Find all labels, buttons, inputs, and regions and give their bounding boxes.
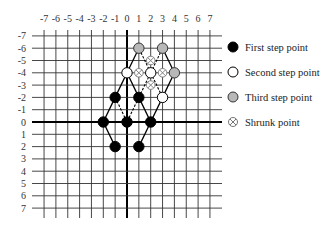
x-tick-label: 4 bbox=[172, 13, 177, 24]
x-tick-label: 6 bbox=[196, 13, 201, 24]
circled-x-icon bbox=[227, 116, 239, 128]
first-step-point bbox=[98, 117, 108, 127]
legend-label: First step point bbox=[245, 42, 308, 53]
y-tick-label: 3 bbox=[21, 153, 26, 164]
shrunk-point bbox=[146, 56, 155, 65]
legend-item-second-step: Second step point bbox=[226, 63, 320, 81]
x-tick-label: -5 bbox=[64, 13, 72, 24]
y-tick-label: -5 bbox=[18, 55, 26, 66]
y-tick-label: 1 bbox=[21, 129, 26, 140]
first-step-point bbox=[134, 92, 144, 102]
first-step-point bbox=[110, 141, 120, 151]
y-tick-label: 0 bbox=[21, 117, 26, 128]
legend-label: Third step point bbox=[245, 92, 312, 103]
legend-item-shrunk: Shrunk point bbox=[226, 113, 300, 131]
x-tick-label: 1 bbox=[136, 13, 141, 24]
legend-label: Shrunk point bbox=[245, 117, 300, 128]
filled-black-circle-icon bbox=[227, 41, 239, 53]
x-tick-label: -1 bbox=[111, 13, 119, 24]
x-tick-label: 7 bbox=[207, 13, 212, 24]
x-tick-label: -7 bbox=[40, 13, 48, 24]
second-step-point bbox=[157, 92, 167, 102]
y-tick-label: -4 bbox=[18, 67, 26, 78]
first-step-point bbox=[110, 92, 120, 102]
legend-item-first-step: First step point bbox=[226, 38, 308, 56]
third-step-point bbox=[169, 68, 179, 78]
hollow-circle-icon bbox=[227, 66, 239, 78]
first-step-point bbox=[134, 141, 144, 151]
y-tick-label: -6 bbox=[18, 43, 26, 54]
second-step-point bbox=[146, 68, 156, 78]
y-tick-label: -3 bbox=[18, 80, 26, 91]
y-tick-label: -2 bbox=[18, 92, 26, 103]
shrunk-point bbox=[158, 69, 167, 78]
shrunk-point bbox=[135, 69, 144, 78]
legend-item-third-step: Third step point bbox=[226, 88, 312, 106]
x-tick-label: -3 bbox=[87, 13, 95, 24]
y-tick-label: -7 bbox=[18, 30, 26, 41]
x-tick-label: 5 bbox=[184, 13, 189, 24]
y-tick-label: 2 bbox=[21, 141, 26, 152]
first-step-point bbox=[146, 117, 156, 127]
y-tick-label: 4 bbox=[21, 166, 26, 177]
legend-label: Second step point bbox=[245, 67, 320, 78]
third-step-point bbox=[157, 43, 167, 53]
y-tick-label: -1 bbox=[18, 104, 26, 115]
x-tick-label: -4 bbox=[75, 13, 83, 24]
shrunk-point bbox=[146, 81, 155, 90]
x-tick-label: -2 bbox=[99, 13, 107, 24]
x-tick-label: 2 bbox=[148, 13, 153, 24]
x-tick-label: -6 bbox=[52, 13, 60, 24]
first-step-point bbox=[122, 117, 132, 127]
second-step-point bbox=[122, 68, 132, 78]
x-tick-label: 3 bbox=[160, 13, 165, 24]
gray-circle-icon bbox=[227, 91, 239, 103]
x-tick-label: 0 bbox=[125, 13, 130, 24]
third-step-point bbox=[134, 43, 144, 53]
y-tick-label: 7 bbox=[21, 203, 26, 214]
y-tick-label: 5 bbox=[21, 178, 26, 189]
y-tick-label: 6 bbox=[21, 190, 26, 201]
